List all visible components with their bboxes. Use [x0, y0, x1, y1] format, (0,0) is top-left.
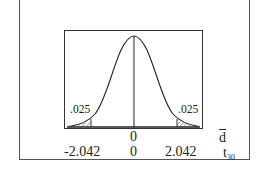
left-tail-area-label: .025: [70, 102, 90, 116]
dbar-center-tick: 0: [130, 130, 137, 144]
t-axis-label: t30: [223, 146, 235, 165]
t-tick-neg: -2.042: [64, 145, 100, 159]
dbar-axis-label: d: [219, 131, 226, 145]
right-tail-area-label: .025: [178, 102, 198, 116]
t-tick-pos: 2.042: [165, 145, 197, 159]
t-tick-zero: 0: [130, 145, 137, 159]
t-axis-df-subscript: 30: [227, 153, 235, 162]
